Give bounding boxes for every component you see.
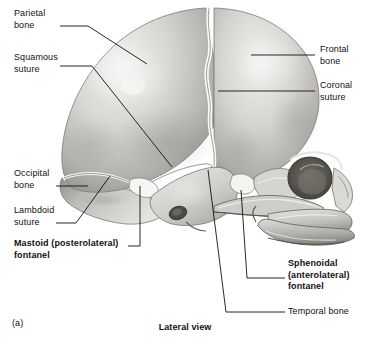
label-coronal-suture: Coronal suture (320, 80, 352, 103)
figure-caption: Lateral view (105, 322, 265, 334)
frontal-bone-region (214, 8, 322, 180)
nasal-region (332, 168, 353, 212)
label-frontal-bone: Frontal bone (320, 44, 349, 67)
fetal-skull-figure: Parietal boneSquamous sutureOccipital bo… (0, 0, 365, 344)
label-squamous-suture: Squamous suture (14, 52, 58, 75)
label-lambdoid-suture: Lambdoid suture (14, 205, 54, 228)
figure-part-letter: (a) (12, 318, 23, 330)
label-mastoid-fontanel: Mastoid (posterolateral) fontanel (14, 238, 118, 261)
label-temporal-bone: Temporal bone (288, 306, 349, 318)
label-occipital-bone: Occipital bone (14, 168, 49, 191)
label-sphenoidal-fontanel: Sphenoidal (anterolateral) fontanel (288, 258, 350, 293)
label-parietal-bone: Parietal bone (14, 8, 45, 31)
